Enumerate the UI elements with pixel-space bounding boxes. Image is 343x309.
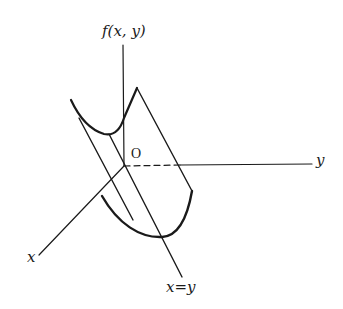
y-axis [180, 164, 312, 165]
y-axis-hidden [124, 165, 180, 166]
x-axis-label: x [27, 250, 35, 265]
origin-label: O [131, 147, 141, 161]
upper-parabola [71, 88, 137, 134]
line-x-equals-y [109, 134, 182, 277]
surface-diagram [0, 0, 343, 309]
f-axis-label: f(x, y) [102, 24, 146, 39]
y-axis-label: y [316, 153, 324, 168]
lower-parabola [102, 191, 192, 237]
f-axis [123, 45, 124, 166]
line-label: x=y [166, 280, 196, 295]
surface-right-edge [137, 88, 192, 191]
